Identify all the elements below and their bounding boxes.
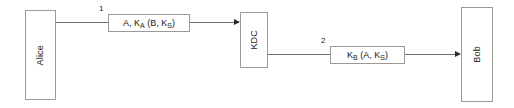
- arrowhead-into-bob-icon: [455, 51, 461, 57]
- arrowhead-into-kdc-icon: [234, 19, 240, 25]
- message-1-text: A, KA (B, KS): [123, 19, 175, 28]
- node-kdc: KDC: [240, 12, 268, 68]
- node-bob-label: Bob: [473, 46, 482, 63]
- node-bob: Bob: [461, 7, 493, 102]
- message-2-text: KB (A, KS): [347, 51, 388, 60]
- node-alice-label: Alice: [36, 45, 45, 66]
- step-number-2: 2: [321, 37, 325, 45]
- connector-message-2-to-bob: [405, 54, 455, 55]
- connector-alice-to-message-1: [56, 22, 108, 23]
- message-box-2: KB (A, KS): [330, 46, 405, 64]
- connector-kdc-to-message-2: [268, 54, 330, 55]
- node-alice: Alice: [25, 10, 56, 100]
- message-box-1: A, KA (B, KS): [108, 14, 190, 32]
- step-number-1: 1: [99, 5, 103, 13]
- kdc-key-distribution-diagram: Alice KDC Bob 1 A, KA (B, KS) 2 KB (A, K…: [0, 0, 514, 108]
- node-kdc-label: KDC: [250, 30, 259, 50]
- connector-message-1-to-kdc: [190, 22, 234, 23]
